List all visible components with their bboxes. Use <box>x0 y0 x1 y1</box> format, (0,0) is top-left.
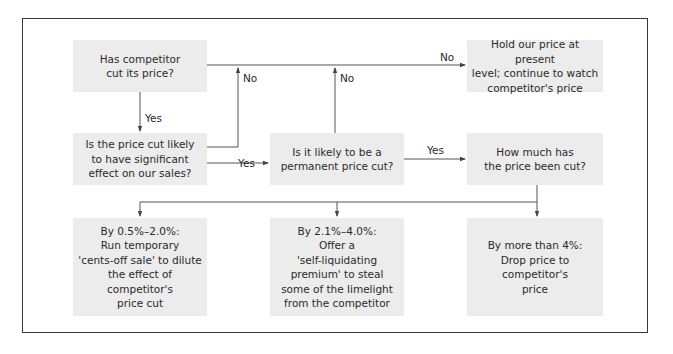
edge-label-q1-no: No <box>440 51 454 63</box>
edge-label-q3-no: No <box>340 72 354 84</box>
node-competitor-cut-price: Has competitor cut its price? <box>73 40 207 92</box>
node-action-medium-cut: By 2.1%–4.0%: Offer a 'self-liquidating … <box>270 218 404 316</box>
edge-label-q2-no: No <box>243 72 257 84</box>
node-hold-price: Hold our price at present level; continu… <box>467 40 603 92</box>
node-permanent-cut: Is it likely to be a permanent price cut… <box>270 133 404 185</box>
node-significant-effect: Is the price cut likely to have signific… <box>73 133 207 185</box>
edge-label-q3-yes: Yes <box>427 144 444 156</box>
edge-label-q2-yes: Yes <box>238 157 255 169</box>
node-how-much-cut: How much has the price been cut? <box>467 133 603 185</box>
node-action-small-cut: By 0.5%–2.0%: Run temporary 'cents-off s… <box>73 218 207 316</box>
edge-label-q1-yes: Yes <box>145 112 162 124</box>
node-action-large-cut: By more than 4%: Drop price to competito… <box>467 218 603 316</box>
